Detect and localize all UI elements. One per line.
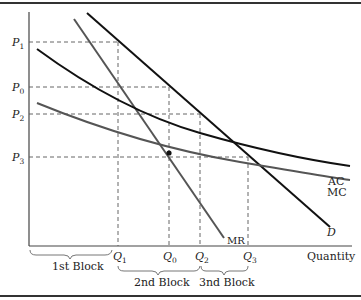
p0-label: P0 [11,81,24,96]
brace-3rd-block [201,266,248,275]
x-axis-label: Quantity [307,250,356,263]
quantity-labels: Q1 Q0 Q2 Q3 Quantity [113,250,356,265]
marginal-cost-curve [37,103,350,180]
p3-label: P3 [11,151,24,166]
p1-label: P1 [11,36,24,51]
mr-label: MR [227,235,245,246]
block-label-3rd: 3nd Block [199,276,255,289]
block-label-1st: 1st Block [52,260,104,273]
curve-labels: AC MC MR D [227,175,347,246]
q1-label: Q1 [113,250,127,265]
q0-label: Q0 [163,250,177,265]
mc-label: MC [327,186,347,199]
demand-curve [87,13,330,227]
brace-2nd-block [118,266,200,275]
diagram-frame: P1 P0 P2 P3 Q1 Q0 Q2 Q3 Quantity AC MC M… [0,0,361,300]
brace-1st-block [30,250,112,259]
q2-label: Q2 [195,250,209,265]
guide-lines [29,42,248,246]
mr-mc-intersection-point [166,150,171,155]
p2-label: P2 [11,108,24,123]
price-labels: P1 P0 P2 P3 [11,36,24,166]
q3-label: Q3 [243,250,257,265]
block-pricing-diagram: P1 P0 P2 P3 Q1 Q0 Q2 Q3 Quantity AC MC M… [0,0,361,300]
block-label-2nd: 2nd Block [134,276,190,289]
d-label: D [326,226,336,239]
marginal-revenue-curve [74,19,224,238]
